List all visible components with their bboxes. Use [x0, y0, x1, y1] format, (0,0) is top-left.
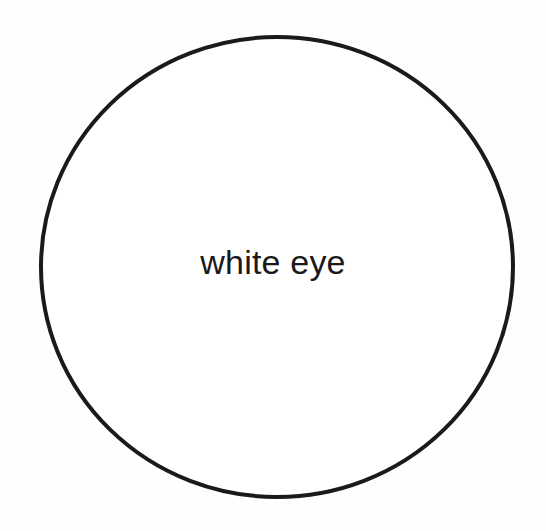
eye-label: white eye: [0, 242, 546, 282]
